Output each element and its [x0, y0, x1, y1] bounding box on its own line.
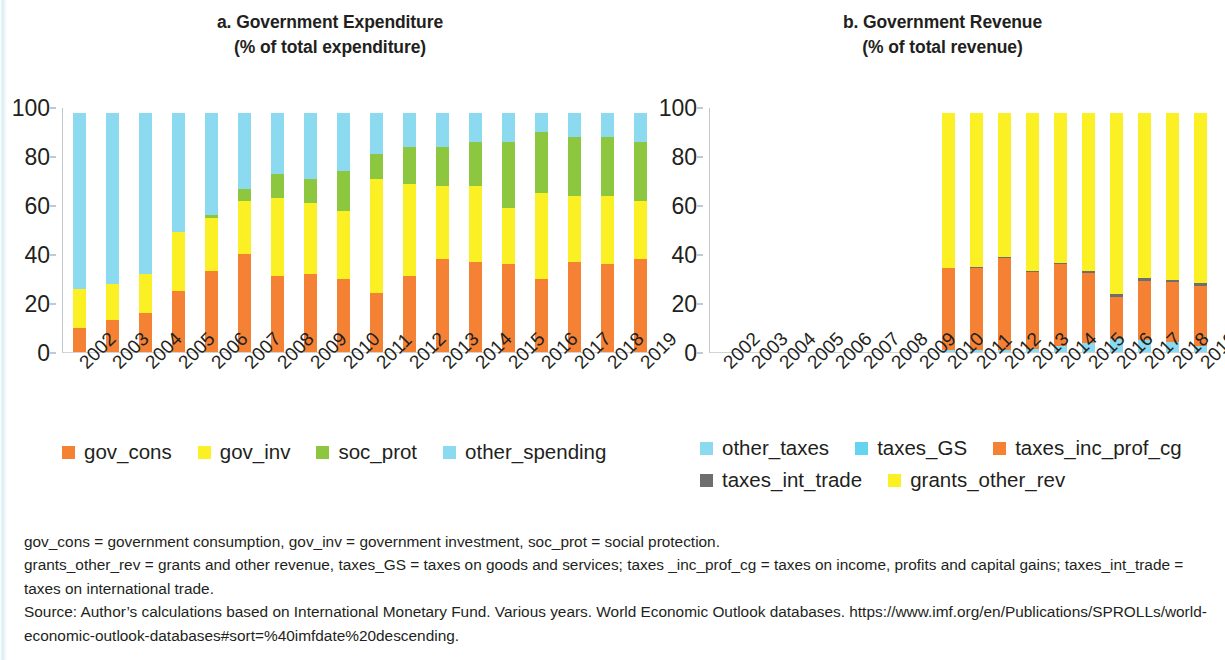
stacked-bar[interactable] — [1138, 108, 1151, 352]
bar-segment-gov_inv — [601, 196, 614, 264]
stacked-bar[interactable] — [1166, 108, 1179, 352]
x-axis-expenditure: 2002200320042005200620072008200920102011… — [62, 356, 657, 426]
stacked-bar[interactable] — [1110, 108, 1123, 352]
bar-segment-gov_inv — [370, 179, 383, 294]
stacked-bar[interactable] — [73, 108, 86, 352]
bar-segment-gov_inv — [535, 193, 548, 278]
stacked-bar[interactable] — [1026, 108, 1039, 352]
bar-segment-other_spending — [271, 113, 284, 174]
legend-item-taxes_GS[interactable]: taxes_GS — [855, 436, 967, 460]
y-tick-label: 20 — [671, 293, 697, 316]
bar-segment-soc_prot — [370, 154, 383, 178]
bar-segment-other_spending — [205, 113, 218, 215]
stacked-bar[interactable] — [139, 108, 152, 352]
y-tick-mark — [50, 303, 56, 304]
bar-slot — [1158, 108, 1186, 352]
stacked-bar[interactable] — [502, 108, 515, 352]
panel-a-title-line1: a. Government Expenditure — [217, 12, 443, 32]
bar-segment-grants_other_rev — [1054, 113, 1067, 263]
plot-area-revenue — [709, 108, 1214, 353]
stacked-bar[interactable] — [436, 108, 449, 352]
y-tick-label: 0 — [684, 342, 697, 365]
y-tick-mark — [50, 254, 56, 255]
bar-slot — [710, 108, 738, 352]
stacked-bar[interactable] — [970, 108, 983, 352]
bar-slot — [962, 108, 990, 352]
bar-segment-other_spending — [502, 113, 515, 142]
bar-segment-soc_prot — [601, 137, 614, 196]
bar-slot — [1046, 108, 1074, 352]
bar-segment-soc_prot — [337, 171, 350, 210]
stacked-bar[interactable] — [205, 108, 218, 352]
y-tick-label: 40 — [24, 244, 50, 267]
stacked-bar[interactable] — [238, 108, 251, 352]
stacked-bar[interactable] — [1194, 108, 1207, 352]
y-tick-mark — [697, 205, 703, 206]
stacked-bar[interactable] — [370, 108, 383, 352]
bar-slot — [393, 108, 426, 352]
stacked-bar[interactable] — [858, 108, 871, 352]
legend-label: other_spending — [465, 440, 606, 464]
stacked-bar[interactable] — [830, 108, 843, 352]
legend-item-taxes_inc_prof_cg[interactable]: taxes_inc_prof_cg — [993, 436, 1181, 460]
x-axis-revenue: 2002200320042005200620072008200920102011… — [709, 356, 1214, 426]
stacked-bar[interactable] — [774, 108, 787, 352]
bar-segment-other_spending — [337, 113, 350, 172]
stacked-bar[interactable] — [568, 108, 581, 352]
bar-segment-grants_other_rev — [970, 113, 983, 267]
stacked-bar[interactable] — [914, 108, 927, 352]
stacked-bar[interactable] — [469, 108, 482, 352]
stacked-bar[interactable] — [942, 108, 955, 352]
stacked-bar[interactable] — [802, 108, 815, 352]
stacked-bar[interactable] — [998, 108, 1011, 352]
legend-swatch-icon — [198, 446, 211, 459]
stacked-bar[interactable] — [337, 108, 350, 352]
bar-segment-grants_other_rev — [1194, 113, 1207, 283]
bar-segment-gov_inv — [304, 203, 317, 274]
stacked-bar[interactable] — [746, 108, 759, 352]
bar-segment-soc_prot — [535, 132, 548, 193]
y-axis-expenditure: 020406080100 — [2, 108, 56, 353]
bar-slot — [129, 108, 162, 352]
bar-segment-grants_other_rev — [1138, 113, 1151, 278]
legend-item-grants_other_rev[interactable]: grants_other_rev — [888, 468, 1065, 492]
stacked-bar[interactable] — [718, 108, 731, 352]
legend-item-taxes_int_trade[interactable]: taxes_int_trade — [700, 468, 862, 492]
bar-segment-soc_prot — [502, 142, 515, 208]
bar-group-revenue — [710, 108, 1214, 352]
stacked-bar[interactable] — [535, 108, 548, 352]
stacked-bar[interactable] — [304, 108, 317, 352]
legend-expenditure: gov_consgov_invsoc_protother_spending — [62, 440, 662, 464]
y-tick-label: 100 — [659, 97, 697, 120]
y-tick-label: 100 — [12, 97, 50, 120]
bar-segment-soc_prot — [271, 174, 284, 198]
legend-swatch-icon — [888, 474, 901, 487]
stacked-bar[interactable] — [172, 108, 185, 352]
bar-segment-grants_other_rev — [1026, 113, 1039, 271]
stacked-bar[interactable] — [106, 108, 119, 352]
bar-slot — [766, 108, 794, 352]
stacked-bar[interactable] — [886, 108, 899, 352]
bar-slot — [426, 108, 459, 352]
bar-segment-grants_other_rev — [1166, 113, 1179, 280]
legend-item-gov_cons[interactable]: gov_cons — [62, 440, 172, 464]
bar-segment-gov_inv — [568, 196, 581, 262]
panel-b-title-line2: (% of total revenue) — [660, 35, 1225, 60]
bar-segment-gov_inv — [634, 201, 647, 260]
legend-item-gov_inv[interactable]: gov_inv — [198, 440, 291, 464]
stacked-bar[interactable] — [1054, 108, 1067, 352]
y-tick-mark — [50, 156, 56, 157]
stacked-bar[interactable] — [601, 108, 614, 352]
stacked-bar[interactable] — [1082, 108, 1095, 352]
legend-item-soc_prot[interactable]: soc_prot — [316, 440, 417, 464]
panel-b-title: b. Government Revenue (% of total revenu… — [660, 10, 1225, 60]
legend-item-other_spending[interactable]: other_spending — [443, 440, 606, 464]
legend-item-other_taxes[interactable]: other_taxes — [700, 436, 829, 460]
legend-revenue: other_taxestaxes_GStaxes_inc_prof_cgtaxe… — [700, 436, 1225, 492]
stacked-bar[interactable] — [271, 108, 284, 352]
stacked-bar[interactable] — [634, 108, 647, 352]
panel-b-title-line1: b. Government Revenue — [843, 12, 1042, 32]
bar-segment-gov_inv — [337, 211, 350, 279]
stacked-bar[interactable] — [403, 108, 416, 352]
bar-slot — [878, 108, 906, 352]
